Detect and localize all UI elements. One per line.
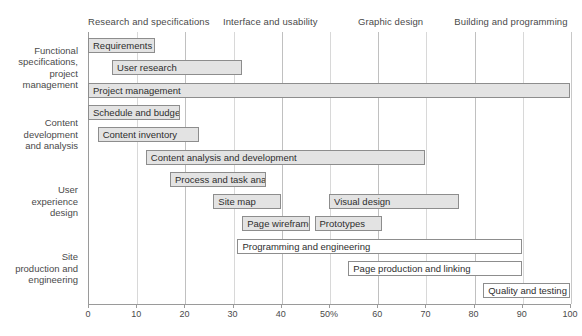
x-tick-80 <box>474 304 475 308</box>
task-bar-label: Page wireframes <box>243 217 309 230</box>
x-tick-30 <box>233 304 234 308</box>
x-tick-40 <box>281 304 282 308</box>
group-label-0: Functional specifications, project manag… <box>0 45 84 91</box>
task-bar[interactable]: Quality and testing <box>483 283 570 298</box>
task-bar-label: Schedule and budget <box>89 106 180 119</box>
task-bar-label: Visual design <box>330 195 394 208</box>
task-bar[interactable]: Visual design <box>329 194 459 209</box>
task-bar[interactable]: Page wireframes <box>242 216 309 231</box>
task-bar-label: Process and task analysis <box>171 173 266 186</box>
task-bar[interactable]: Prototypes <box>315 216 382 231</box>
task-bar-label: Content analysis and development <box>147 151 301 164</box>
x-tick-90 <box>522 304 523 308</box>
group-label-3: Site production and engineering <box>0 251 84 286</box>
task-bar-label: Project management <box>89 84 185 97</box>
task-bar[interactable]: Site map <box>213 194 280 209</box>
x-tick-label-50: 50% <box>320 309 338 319</box>
gridline-40 <box>282 32 283 304</box>
task-bar[interactable]: Content analysis and development <box>146 150 426 165</box>
task-bar[interactable]: Requirements <box>88 38 155 53</box>
x-tick-50 <box>329 304 330 308</box>
task-bar-label: Page production and linking <box>349 262 474 275</box>
x-tick-label-70: 70 <box>420 309 430 319</box>
task-bar[interactable]: Schedule and budget <box>88 105 180 120</box>
task-bar-label: Programming and engineering <box>238 240 374 253</box>
gantt-chart: Research and specificationsInterface and… <box>0 0 582 336</box>
gridline-90 <box>523 32 524 304</box>
phase-header-1: Interface and usability <box>223 16 318 27</box>
x-tick-label-80: 80 <box>469 309 479 319</box>
x-tick-0 <box>88 304 89 308</box>
x-tick-label-40: 40 <box>276 309 286 319</box>
phase-header-0: Research and specifications <box>88 16 210 27</box>
x-tick-label-20: 20 <box>179 309 189 319</box>
x-tick-100 <box>570 304 571 308</box>
x-tick-70 <box>425 304 426 308</box>
x-tick-label-90: 90 <box>517 309 527 319</box>
x-tick-label-0: 0 <box>85 309 90 319</box>
task-bar-label: Quality and testing <box>484 284 570 297</box>
group-label-1: Content development and analysis <box>0 117 84 152</box>
task-bar[interactable]: User research <box>112 60 242 75</box>
task-bar[interactable]: Page production and linking <box>348 261 522 276</box>
task-bar-label: Prototypes <box>316 217 369 230</box>
x-tick-label-60: 60 <box>372 309 382 319</box>
task-bar[interactable]: Project management <box>88 83 570 98</box>
task-bar-label: User research <box>113 61 181 74</box>
gridline-50 <box>330 32 331 304</box>
x-tick-10 <box>136 304 137 308</box>
task-bar-label: Site map <box>214 195 260 208</box>
phase-header-3: Building and programming <box>454 16 567 27</box>
x-tick-label-100: 100 <box>562 309 577 319</box>
group-label-2: User experience design <box>0 184 84 219</box>
task-bar[interactable]: Programming and engineering <box>237 239 521 254</box>
x-tick-label-30: 30 <box>228 309 238 319</box>
x-tick-60 <box>377 304 378 308</box>
x-tick-20 <box>184 304 185 308</box>
task-bar-label: Content inventory <box>99 128 181 141</box>
x-tick-label-10: 10 <box>131 309 141 319</box>
task-bar[interactable]: Content inventory <box>98 127 199 142</box>
phase-header-2: Graphic design <box>358 16 423 27</box>
task-bar[interactable]: Process and task analysis <box>170 172 266 187</box>
task-bar-label: Requirements <box>89 39 155 52</box>
